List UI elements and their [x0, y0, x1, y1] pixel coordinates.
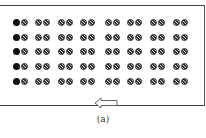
hatched-particle-icon — [21, 63, 28, 70]
hatched-particle-icon — [158, 19, 165, 26]
hatched-particle-icon — [135, 34, 142, 41]
hatched-particle-icon — [58, 19, 65, 26]
hatched-particle-icon — [35, 78, 42, 85]
hatched-particle-icon — [127, 48, 134, 55]
hatched-particle-icon — [181, 78, 188, 85]
hatched-particle-icon — [181, 63, 188, 70]
hatched-particle-icon — [150, 34, 157, 41]
hatched-particle-icon — [58, 48, 65, 55]
hatched-particle-icon — [150, 63, 157, 70]
hatched-particle-icon — [80, 78, 87, 85]
black-particle-icon — [13, 78, 20, 85]
hatched-particle-icon — [105, 78, 112, 85]
hatched-particle-icon — [88, 78, 95, 85]
black-particle-icon — [13, 48, 20, 55]
hatched-particle-icon — [58, 63, 65, 70]
hatched-particle-icon — [21, 48, 28, 55]
hatched-particle-icon — [21, 34, 28, 41]
diagram-frame — [0, 5, 205, 106]
hatched-particle-icon — [135, 48, 142, 55]
hatched-particle-icon — [127, 34, 134, 41]
hatched-particle-icon — [35, 48, 42, 55]
hatched-particle-icon — [173, 78, 180, 85]
hatched-particle-icon — [35, 63, 42, 70]
hatched-particle-icon — [35, 34, 42, 41]
hatched-particle-icon — [135, 78, 142, 85]
hatched-particle-icon — [88, 48, 95, 55]
hatched-particle-icon — [127, 19, 134, 26]
hatched-particle-icon — [58, 78, 65, 85]
hatched-particle-icon — [181, 48, 188, 55]
hatched-particle-icon — [43, 48, 50, 55]
hatched-particle-icon — [173, 48, 180, 55]
hatched-particle-icon — [43, 78, 50, 85]
hatched-particle-icon — [88, 63, 95, 70]
hatched-particle-icon — [158, 78, 165, 85]
hatched-particle-icon — [158, 34, 165, 41]
hatched-particle-icon — [105, 63, 112, 70]
hatched-particle-icon — [135, 19, 142, 26]
hatched-particle-icon — [158, 48, 165, 55]
hatched-particle-icon — [173, 63, 180, 70]
hatched-particle-icon — [88, 34, 95, 41]
hatched-particle-icon — [105, 34, 112, 41]
hatched-particle-icon — [113, 63, 120, 70]
hatched-particle-icon — [135, 63, 142, 70]
left-arrow-icon — [94, 97, 118, 109]
hatched-particle-icon — [66, 34, 73, 41]
hatched-particle-icon — [66, 19, 73, 26]
hatched-particle-icon — [113, 19, 120, 26]
hatched-particle-icon — [35, 19, 42, 26]
hatched-particle-icon — [150, 48, 157, 55]
hatched-particle-icon — [150, 78, 157, 85]
hatched-particle-icon — [66, 48, 73, 55]
black-particle-icon — [13, 34, 20, 41]
black-particle-icon — [13, 63, 20, 70]
hatched-particle-icon — [181, 34, 188, 41]
hatched-particle-icon — [43, 19, 50, 26]
hatched-particle-icon — [158, 63, 165, 70]
hatched-particle-icon — [58, 34, 65, 41]
hatched-particle-icon — [181, 19, 188, 26]
hatched-particle-icon — [43, 34, 50, 41]
hatched-particle-icon — [80, 34, 87, 41]
hatched-particle-icon — [66, 63, 73, 70]
hatched-particle-icon — [43, 63, 50, 70]
hatched-particle-icon — [113, 78, 120, 85]
hatched-particle-icon — [105, 19, 112, 26]
hatched-particle-icon — [173, 34, 180, 41]
hatched-particle-icon — [173, 19, 180, 26]
hatched-particle-icon — [127, 63, 134, 70]
hatched-particle-icon — [66, 78, 73, 85]
hatched-particle-icon — [80, 19, 87, 26]
hatched-particle-icon — [21, 78, 28, 85]
hatched-particle-icon — [113, 48, 120, 55]
hatched-particle-icon — [105, 48, 112, 55]
hatched-particle-icon — [80, 63, 87, 70]
figure-caption: (a) — [0, 114, 206, 124]
hatched-particle-icon — [113, 34, 120, 41]
black-particle-icon — [13, 19, 20, 26]
hatched-particle-icon — [21, 19, 28, 26]
hatched-particle-icon — [80, 48, 87, 55]
hatched-particle-icon — [88, 19, 95, 26]
hatched-particle-icon — [150, 19, 157, 26]
hatched-particle-icon — [127, 78, 134, 85]
